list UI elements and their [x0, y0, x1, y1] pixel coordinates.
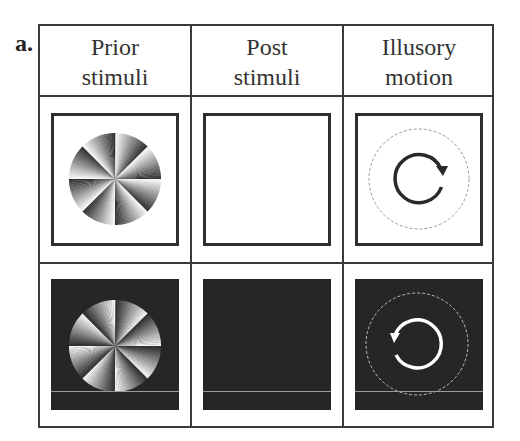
- header-text: stimuli: [234, 62, 301, 92]
- scan-line: [51, 391, 179, 392]
- column-header-post-stimuli: Post stimuli: [192, 26, 342, 97]
- header-text: motion: [385, 62, 453, 92]
- row-divider: [40, 262, 492, 264]
- scan-line: [203, 391, 331, 392]
- illusory-motion-dark: [355, 279, 483, 410]
- panel-label: a.: [15, 30, 33, 57]
- header-text: stimuli: [82, 62, 149, 92]
- pinwheel-icon: [54, 116, 176, 243]
- clockwise-arrow-icon: [395, 155, 448, 203]
- prior-stimulus-dark: [51, 279, 179, 410]
- dashed-circle-icon: [369, 129, 469, 229]
- illusory-motion-light: [355, 113, 483, 246]
- header-text: Illusory: [382, 32, 457, 62]
- post-stimulus-light: [203, 113, 331, 246]
- scan-line: [355, 391, 483, 392]
- column-header-prior-stimuli: Prior stimuli: [40, 26, 190, 97]
- column-header-illusory-motion: Illusory motion: [344, 26, 494, 97]
- header-text: Post: [246, 32, 287, 62]
- dashed-circle-icon: [366, 293, 468, 395]
- header-text: Prior: [91, 32, 139, 62]
- prior-stimulus-light: [51, 113, 179, 246]
- post-stimulus-dark: [203, 279, 331, 410]
- counterclockwise-arrow-icon: [390, 320, 441, 368]
